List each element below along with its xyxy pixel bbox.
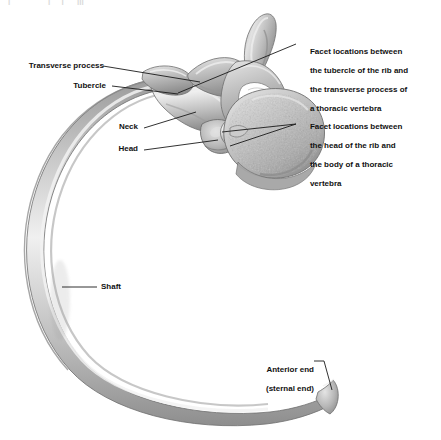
label-facet-head: Facet locations between the head of the … xyxy=(301,112,441,198)
label-facet-head-line3: the body of a thoracic xyxy=(310,160,393,169)
label-shaft: Shaft xyxy=(101,282,121,292)
anatomy-figure: | | | ||| xyxy=(0,0,441,440)
label-neck: Neck xyxy=(100,122,138,132)
label-facet-tubercle: Facet locations between the tubercle of … xyxy=(301,37,441,123)
label-facet-head-line4: vertebra xyxy=(310,179,342,188)
label-facet-head-line2: the head of the rib and xyxy=(310,141,396,150)
label-facet-tubercle-line1: Facet locations between xyxy=(310,47,402,56)
label-transverse-process: Transverse process xyxy=(14,61,104,71)
label-facet-tubercle-line3: the transverse process of xyxy=(310,85,407,94)
label-facet-tubercle-line2: the tubercle of the rib and xyxy=(310,66,408,75)
label-anterior-end-line1: Anterior end xyxy=(266,365,314,374)
label-anterior-end: Anterior end (sternal end) xyxy=(236,355,314,403)
label-facet-head-line1: Facet locations between xyxy=(310,122,402,131)
label-anterior-end-line2: (sternal end) xyxy=(266,384,314,393)
label-head: Head xyxy=(98,144,138,154)
label-tubercle: Tubercle xyxy=(50,81,106,91)
